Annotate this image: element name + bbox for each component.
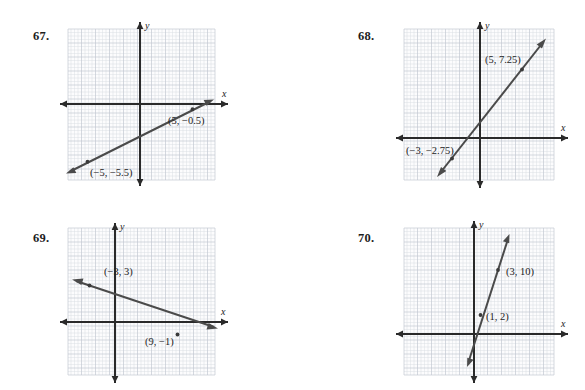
point-marker — [496, 268, 500, 272]
point-marker — [88, 284, 92, 288]
problem-69: 69. — [0, 195, 292, 390]
graph-69-svg: x y (−3, 3) (9, −1) — [58, 217, 233, 385]
problem-number-70: 70. — [358, 231, 374, 246]
point-label-5-7.25: (5, 7.25) — [485, 54, 521, 66]
point-marker — [520, 68, 524, 72]
worksheet-page: 67. — [0, 0, 585, 390]
point-label-1-2: (1, 2) — [486, 311, 509, 323]
graph-70: x y (3, 10) (1, 2) — [392, 217, 572, 385]
graph-70-svg: x y (3, 10) (1, 2) — [392, 217, 572, 385]
point-label-5--0.5: (5, −0.5) — [168, 115, 205, 127]
problem-70: 70. — [292, 195, 585, 390]
x-axis-label: x — [221, 88, 227, 99]
graph-68: x y (5, 7.25) (−3, −2.75) — [392, 18, 572, 190]
point-label--5--5.5: (−5, −5.5) — [90, 167, 133, 179]
problem-67: 67. — [0, 0, 292, 195]
graph-68-svg: x y (5, 7.25) (−3, −2.75) — [392, 18, 572, 190]
problem-number-69: 69. — [33, 231, 49, 246]
x-axis-label: x — [560, 318, 566, 329]
point-marker — [191, 107, 195, 111]
y-axis-label: y — [484, 20, 490, 31]
graph-67: x y (5, −0.5) (−5, −5.5) — [58, 18, 233, 190]
graph-69: x y (−3, 3) (9, −1) — [58, 217, 233, 385]
x-axis-label: x — [560, 122, 566, 133]
problem-68: 68. — [292, 0, 585, 195]
graph-67-svg: x y (5, −0.5) (−5, −5.5) — [58, 18, 233, 190]
point-label-9--1: (9, −1) — [145, 336, 174, 348]
y-axis-label: y — [478, 219, 484, 230]
point-marker — [86, 160, 90, 164]
point-label--3--2.75: (−3, −2.75) — [406, 145, 454, 157]
problem-number-68: 68. — [358, 29, 374, 44]
x-axis-label: x — [220, 306, 226, 317]
point-label-3-10: (3, 10) — [506, 266, 534, 278]
point-marker — [479, 313, 483, 317]
problem-number-67: 67. — [33, 29, 49, 44]
y-axis-label: y — [119, 221, 125, 232]
point-marker — [176, 333, 180, 337]
point-marker — [450, 157, 454, 161]
y-axis-label: y — [144, 20, 150, 31]
point-label--3-3: (−3, 3) — [104, 266, 133, 278]
